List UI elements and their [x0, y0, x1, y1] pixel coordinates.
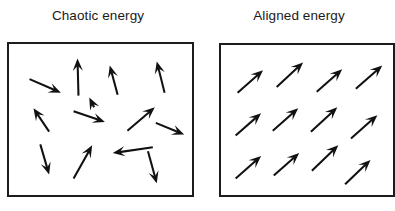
arrow-10-shaft: [74, 151, 89, 178]
arrow-9-icon: [40, 144, 50, 174]
arrow-r1c1-shaft: [238, 75, 258, 93]
arrow-r3c2-icon: [274, 153, 299, 175]
arrow-r3c2-head: [287, 153, 300, 165]
arrow-7-shaft: [127, 112, 149, 131]
arrow-5-shaft: [37, 114, 49, 132]
arrow-r1c3-icon: [317, 69, 342, 91]
arrow-r1c3-head: [330, 69, 343, 81]
aligned-arrow-svg: [221, 45, 393, 195]
arrow-9-head: [41, 161, 51, 174]
arrow-4-head: [155, 62, 165, 75]
arrow-4-icon: [155, 62, 165, 93]
arrow-8-head: [171, 125, 184, 134]
arrow-9-shaft: [40, 144, 47, 168]
arrow-r1c4-icon: [356, 65, 382, 88]
arrow-11-shaft: [119, 147, 152, 152]
arrow-r3c4-shaft: [345, 165, 366, 185]
arrow-r1c2-shaft: [277, 67, 298, 87]
chaotic-panel-title: Chaotic energy: [0, 8, 196, 23]
arrow-6-icon: [74, 111, 105, 123]
arrow-r1c3-shaft: [317, 74, 337, 92]
aligned-panel-title: Aligned energy: [206, 8, 392, 23]
arrow-2-shaft: [78, 65, 79, 95]
arrow-r3c3-shaft: [312, 150, 334, 171]
arrow-r2c1-shaft: [236, 118, 256, 136]
chaotic-arrow-layer: [9, 44, 192, 195]
arrow-4-shaft: [158, 68, 164, 93]
arrow-12-icon: [148, 151, 159, 183]
arrow-3-head: [108, 65, 118, 78]
arrow-r2c3-head: [325, 107, 337, 119]
arrow-r2c2-icon: [273, 108, 298, 130]
arrow-r2c4-icon: [351, 115, 377, 138]
arrow-5-icon: [33, 108, 49, 131]
arrow-r3c3-icon: [312, 145, 338, 170]
arrow-5-head: [33, 108, 44, 121]
arrow-r1c1-icon: [238, 70, 263, 92]
aligned-arrow-layer: [221, 45, 393, 195]
arrow-12-shaft: [148, 151, 155, 177]
arrow-7-head: [142, 107, 155, 119]
arrow-13-head: [89, 98, 99, 111]
arrow-2-icon: [73, 59, 83, 96]
chaotic-energy-panel: [7, 42, 194, 197]
arrow-r1c2-head: [291, 63, 303, 75]
arrow-6-head: [92, 113, 105, 123]
arrow-2-head: [73, 59, 83, 71]
arrow-11-icon: [113, 146, 153, 156]
arrow-1-head: [48, 83, 61, 93]
arrow-6-shaft: [74, 111, 99, 120]
arrow-r2c1-icon: [236, 113, 261, 135]
chaotic-arrow-svg: [9, 44, 192, 195]
arrow-r2c3-icon: [311, 107, 337, 131]
arrow-13-icon: [89, 98, 99, 111]
arrow-r1c2-icon: [277, 63, 303, 87]
arrow-10-head: [82, 145, 92, 158]
arrow-3-shaft: [112, 72, 118, 95]
arrow-r3c1-icon: [236, 156, 261, 178]
arrow-r3c4-head: [358, 160, 370, 172]
arrow-8-icon: [156, 123, 184, 135]
arrow-7-icon: [127, 107, 154, 130]
arrow-r2c4-head: [365, 115, 378, 127]
arrow-r1c4-head: [370, 65, 383, 77]
arrow-r3c3-head: [326, 145, 338, 157]
arrow-r3c2-shaft: [274, 158, 294, 176]
arrow-10-icon: [74, 145, 93, 178]
arrow-11-head: [113, 146, 126, 156]
arrow-r2c2-shaft: [273, 113, 293, 131]
arrow-8-shaft: [156, 123, 178, 132]
arrow-12-head: [149, 170, 159, 183]
arrow-r1c1-head: [251, 70, 264, 82]
arrow-r2c4-shaft: [351, 120, 372, 139]
aligned-energy-panel: [219, 43, 395, 197]
arrow-r3c1-shaft: [236, 160, 256, 178]
arrow-13-shaft: [92, 104, 94, 108]
arrow-r3c1-head: [249, 156, 262, 168]
arrow-r3c4-icon: [345, 160, 370, 184]
arrow-r2c3-shaft: [311, 112, 332, 132]
arrow-r2c2-head: [286, 108, 299, 120]
arrow-1-shaft: [30, 79, 55, 90]
arrow-3-icon: [108, 65, 118, 94]
arrow-r2c1-head: [249, 113, 262, 125]
arrow-r1c4-shaft: [356, 70, 377, 89]
arrow-1-icon: [30, 79, 61, 93]
